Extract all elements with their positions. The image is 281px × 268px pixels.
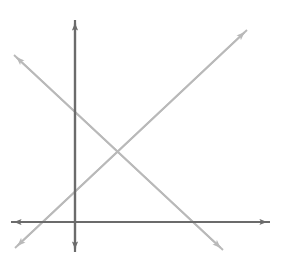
graph-figure [0,0,281,268]
figure-background [0,0,281,268]
coordinate-plane-svg [0,0,281,268]
